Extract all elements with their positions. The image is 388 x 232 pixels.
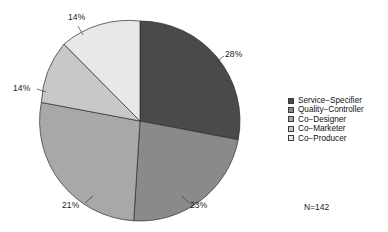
pie-slice-service-specifier[interactable] xyxy=(140,21,240,140)
legend-swatch-icon xyxy=(288,98,294,104)
legend-item-service-specifier[interactable]: Service−Specifier xyxy=(288,96,364,105)
legend-swatch-icon xyxy=(288,126,294,132)
pie-slice-co-designer[interactable] xyxy=(40,102,140,220)
legend-item-label: Co−Designer xyxy=(298,115,346,124)
legend-item-quality-controller[interactable]: Quality−Controller xyxy=(288,105,364,114)
legend-item-co-marketer[interactable]: Co−Marketer xyxy=(288,124,364,133)
legend-item-label: Service−Specifier xyxy=(298,96,362,105)
sample-size-annotation: N=142 xyxy=(304,202,329,212)
slice-value-label-co-designer: 21% xyxy=(62,200,79,210)
slice-value-label-service-specifier: 28% xyxy=(225,49,242,59)
slice-value-label-quality-controller: 23% xyxy=(190,200,207,210)
chart-legend: Service−Specifier Quality−Controller Co−… xyxy=(288,96,364,143)
legend-item-label: Quality−Controller xyxy=(298,105,364,114)
slice-value-label-co-marketer: 14% xyxy=(13,83,30,93)
legend-item-label: Co−Producer xyxy=(298,134,346,143)
legend-swatch-icon xyxy=(288,107,294,113)
pie-chart-figure: 28% 23% 21% 14% 14% Service−Specifier Qu… xyxy=(0,0,388,232)
legend-swatch-icon xyxy=(288,135,294,141)
pie-slices xyxy=(40,20,240,221)
slice-value-label-co-producer: 14% xyxy=(68,12,85,22)
legend-item-co-producer[interactable]: Co−Producer xyxy=(288,134,364,143)
legend-swatch-icon xyxy=(288,116,294,122)
legend-item-co-designer[interactable]: Co−Designer xyxy=(288,115,364,124)
legend-item-label: Co−Marketer xyxy=(298,124,346,133)
